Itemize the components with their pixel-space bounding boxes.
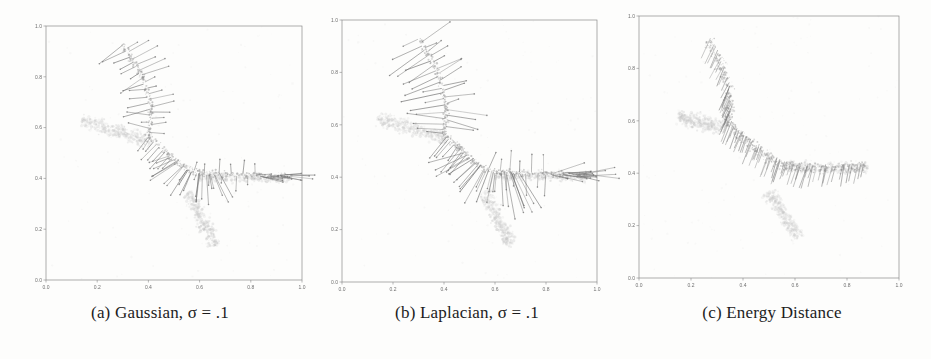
svg-text:1.0: 1.0 — [35, 23, 42, 29]
svg-text:1.0: 1.0 — [299, 284, 306, 290]
svg-text:0.2: 0.2 — [331, 226, 338, 232]
figure-panel: 0.00.00.20.20.40.40.60.60.80.81.01.00.00… — [0, 0, 931, 359]
svg-text:0.4: 0.4 — [145, 284, 152, 290]
svg-text:0.0: 0.0 — [636, 282, 643, 288]
svg-text:0.0: 0.0 — [339, 286, 346, 292]
svg-text:0.2: 0.2 — [390, 286, 397, 292]
svg-text:0.8: 0.8 — [247, 284, 254, 290]
caption-energy-distance: (c) Energy Distance — [612, 303, 931, 323]
svg-text:0.6: 0.6 — [331, 122, 338, 128]
svg-text:0.4: 0.4 — [441, 286, 448, 292]
svg-text:0.2: 0.2 — [628, 222, 635, 228]
svg-text:0.6: 0.6 — [628, 118, 635, 124]
svg-text:0.6: 0.6 — [492, 286, 499, 292]
svg-text:0.2: 0.2 — [688, 282, 695, 288]
svg-text:0.0: 0.0 — [43, 284, 50, 290]
svg-text:0.0: 0.0 — [35, 277, 42, 283]
caption-laplacian: (b) Laplacian, σ = .1 — [307, 303, 627, 323]
svg-text:0.2: 0.2 — [35, 226, 42, 232]
svg-text:0.8: 0.8 — [543, 286, 550, 292]
svg-text:0.0: 0.0 — [331, 279, 338, 285]
svg-text:0.6: 0.6 — [35, 124, 42, 130]
svg-text:0.8: 0.8 — [628, 65, 635, 71]
svg-text:1.0: 1.0 — [896, 282, 903, 288]
svg-text:1.0: 1.0 — [628, 13, 635, 19]
plot-energy-distance: 0.00.00.20.20.40.40.60.60.80.81.01.0 — [628, 13, 903, 288]
svg-text:1.0: 1.0 — [594, 286, 601, 292]
svg-text:0.8: 0.8 — [35, 74, 42, 80]
svg-text:0.4: 0.4 — [331, 174, 338, 180]
svg-text:0.4: 0.4 — [628, 170, 635, 176]
svg-text:0.4: 0.4 — [35, 175, 42, 181]
plot-laplacian: 0.00.00.20.20.40.40.60.60.80.81.01.0 — [331, 17, 620, 292]
svg-text:0.2: 0.2 — [94, 284, 101, 290]
caption-gaussian: (a) Gaussian, σ = .1 — [0, 303, 320, 323]
svg-text:0.0: 0.0 — [628, 275, 635, 281]
svg-text:0.4: 0.4 — [740, 282, 747, 288]
svg-text:1.0: 1.0 — [331, 17, 338, 23]
svg-text:0.8: 0.8 — [844, 282, 851, 288]
svg-text:0.6: 0.6 — [792, 282, 799, 288]
plot-gaussian: 0.00.00.20.20.40.40.60.60.80.81.01.0 — [35, 23, 316, 290]
svg-text:0.6: 0.6 — [196, 284, 203, 290]
svg-text:0.8: 0.8 — [331, 69, 338, 75]
